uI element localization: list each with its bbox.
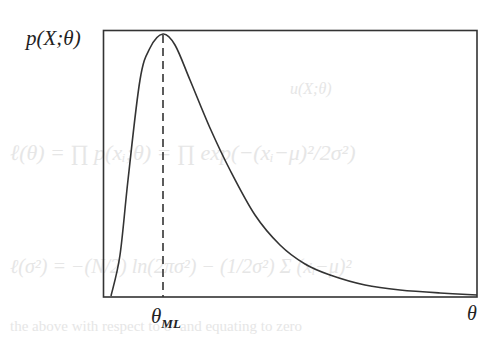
theta-ml-label: θML (151, 304, 181, 332)
theta-ml-subscript: ML (161, 316, 181, 331)
theta-ml-main: θ (151, 304, 161, 328)
likelihood-curve (111, 34, 477, 296)
x-axis-label: θ (467, 302, 477, 325)
likelihood-chart (0, 0, 502, 344)
y-axis-label: p(X;θ) (26, 26, 81, 51)
chart-frame (104, 31, 478, 298)
